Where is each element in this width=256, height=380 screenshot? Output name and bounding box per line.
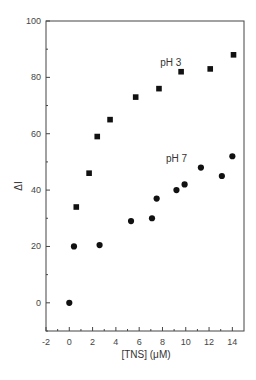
- y-tick-label: 20: [31, 241, 41, 251]
- series-annotation: pH 7: [166, 153, 188, 164]
- x-tick-label: -2: [42, 337, 50, 347]
- series-annotation: pH 3: [160, 57, 182, 68]
- x-tick-label: 10: [181, 337, 191, 347]
- scatter-chart: -202468101214 020406080100 pH 3pH 7 [TNS…: [0, 0, 256, 380]
- x-tick-label: 14: [227, 337, 237, 347]
- x-axis-label: [TNS] (μM): [121, 349, 170, 360]
- x-tick-label: 6: [137, 337, 142, 347]
- y-axis-label: ΔI: [13, 181, 24, 190]
- circle-marker: [154, 195, 160, 201]
- square-marker: [133, 94, 139, 100]
- x-tick-label: 8: [160, 337, 165, 347]
- y-tick-label: 0: [36, 298, 41, 308]
- x-tick-label: 4: [113, 337, 118, 347]
- square-marker: [94, 134, 100, 140]
- y-tick-label: 60: [31, 129, 41, 139]
- y-tick-label: 80: [31, 72, 41, 82]
- x-axis-ticks: -202468101214: [42, 327, 237, 347]
- plot-border: [46, 21, 244, 331]
- circle-marker: [198, 164, 204, 170]
- circle-marker: [149, 215, 155, 221]
- x-tick-label: 12: [204, 337, 214, 347]
- circle-marker: [96, 242, 102, 248]
- y-tick-label: 100: [26, 16, 41, 26]
- square-marker: [107, 117, 113, 123]
- square-marker: [73, 204, 79, 210]
- circle-marker: [128, 218, 134, 224]
- square-marker: [156, 86, 162, 92]
- data-points: [66, 52, 236, 306]
- circle-marker: [66, 300, 72, 306]
- square-marker: [178, 69, 184, 75]
- circle-marker: [229, 153, 235, 159]
- circle-marker: [71, 243, 77, 249]
- y-tick-label: 40: [31, 185, 41, 195]
- plot-frame: [46, 21, 244, 331]
- x-tick-label: 0: [67, 337, 72, 347]
- square-marker: [207, 66, 213, 72]
- circle-marker: [219, 173, 225, 179]
- circle-marker: [173, 187, 179, 193]
- circle-marker: [182, 181, 188, 187]
- x-tick-label: 2: [90, 337, 95, 347]
- square-marker: [231, 52, 237, 58]
- square-marker: [86, 170, 92, 176]
